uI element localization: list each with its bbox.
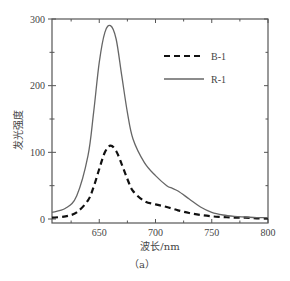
- series-line-r-1: [52, 25, 268, 217]
- legend: B-1R-1: [164, 51, 226, 85]
- x-tick-label: 800: [261, 227, 276, 238]
- plot-frame: [52, 19, 268, 223]
- y-tick-label: 200: [30, 80, 45, 91]
- legend-label: R-1: [211, 74, 226, 85]
- series-line-b-1: [52, 146, 268, 219]
- legend-label: B-1: [211, 51, 226, 62]
- x-tick-label: 700: [148, 227, 163, 238]
- x-tick-label: 650: [92, 227, 107, 238]
- figure-caption: （a）: [129, 259, 155, 270]
- y-axis-title: 发光强度: [12, 110, 24, 150]
- x-tick-label: 750: [204, 227, 219, 238]
- curves: [52, 25, 268, 218]
- x-axis-title: 波长/nm: [140, 240, 180, 252]
- spectrum-chart: 6507007508000100200300 B-1R-1 波长/nm 发光强度…: [0, 0, 290, 281]
- axes: 6507007508000100200300: [30, 14, 276, 239]
- y-tick-label: 100: [30, 147, 45, 158]
- y-tick-label: 300: [30, 14, 45, 25]
- y-tick-label: 0: [40, 214, 45, 225]
